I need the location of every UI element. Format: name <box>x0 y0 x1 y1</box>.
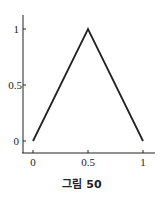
figure-caption: 그림 50 <box>0 175 164 191</box>
chart: 0 0.5 1 0 0.5 1 <box>0 0 164 200</box>
y-tick-label: 0 <box>14 135 20 147</box>
x-tick-label: 0.5 <box>81 156 95 168</box>
data-line <box>33 29 143 141</box>
y-tick-label: 0.5 <box>8 79 22 91</box>
x-tick-label: 1 <box>140 156 146 168</box>
y-tick-label: 1 <box>14 23 20 35</box>
x-tick-label: 0 <box>30 156 36 168</box>
